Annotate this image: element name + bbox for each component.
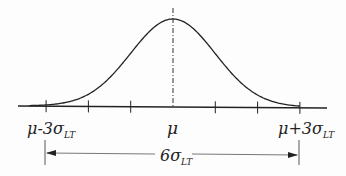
label-plus-3-sigma-base: μ+3σ [278,119,324,138]
label-minus-3-sigma-base: μ-3σ [27,119,65,138]
label-minus-3-sigma-sub: LT [63,130,76,140]
arrowhead-left [46,150,56,156]
label-plus-3-sigma: μ+3σLT [278,119,335,140]
x-axis-baseline [18,106,327,108]
dimension-line-left [47,153,155,154]
diagram-canvas: μ-3σLT μ μ+3σLT 6σLT [0,0,346,176]
bell-curve [29,19,300,106]
label-six-sigma-base: 6σ [160,146,182,165]
label-six-sigma-sub: LT [180,157,193,167]
label-minus-3-sigma: μ-3σLT [27,119,76,140]
label-six-sigma-span: 6σLT [160,146,193,167]
normal-distribution-diagram: μ-3σLT μ μ+3σLT 6σLT [0,0,346,176]
dimension-line-right [192,154,297,155]
label-mu-base: μ [167,118,178,138]
arrowhead-right [288,152,298,158]
label-plus-3-sigma-sub: LT [322,130,335,140]
label-mu: μ [167,118,178,138]
